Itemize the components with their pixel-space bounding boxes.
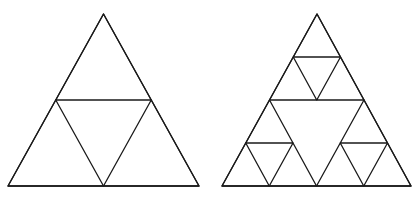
triangle: [56, 14, 152, 100]
triangle: [317, 143, 364, 186]
sierpinski-iteration-1: [8, 14, 199, 186]
triangle: [364, 143, 411, 186]
triangle: [340, 100, 387, 143]
triangle: [293, 14, 340, 57]
triangle: [8, 100, 104, 186]
sierpinski-figure: [0, 0, 415, 206]
triangle: [222, 143, 269, 186]
triangle: [269, 143, 316, 186]
triangle: [270, 57, 317, 100]
triangle: [246, 100, 293, 143]
triangle: [104, 100, 200, 186]
triangle: [317, 57, 364, 100]
sierpinski-iteration-2: [222, 14, 411, 186]
